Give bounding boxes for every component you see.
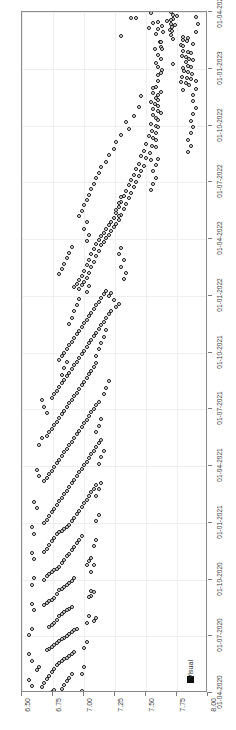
scatter-point bbox=[127, 183, 131, 187]
value-tick-mark bbox=[176, 692, 177, 696]
scatter-point bbox=[65, 360, 69, 364]
scatter-point bbox=[137, 162, 141, 166]
scatter-point bbox=[119, 265, 123, 269]
scatter-point bbox=[92, 563, 96, 567]
scatter-point bbox=[45, 648, 49, 652]
scatter-point bbox=[89, 252, 93, 256]
scatter-point bbox=[72, 285, 76, 289]
scatter-point bbox=[92, 365, 96, 369]
scatter-point bbox=[89, 187, 93, 191]
scatter-point bbox=[94, 538, 98, 542]
value-tick-label: 7.50 bbox=[148, 698, 155, 712]
value-axis: 6.506.757.007.257.507.758.00 bbox=[21, 692, 207, 730]
scatter-point bbox=[70, 672, 74, 676]
scatter-point bbox=[124, 120, 128, 124]
scatter-point bbox=[92, 182, 96, 186]
value-tick-mark bbox=[52, 692, 53, 696]
scatter-point bbox=[87, 595, 91, 599]
scatter-point bbox=[30, 525, 34, 529]
scatter-point bbox=[99, 165, 103, 169]
scatter-point bbox=[82, 646, 86, 650]
scatter-point bbox=[32, 576, 36, 580]
scatter-point bbox=[42, 405, 46, 409]
scatter-point bbox=[27, 652, 31, 656]
scatter-point bbox=[191, 125, 195, 129]
value-tick-label: 6.50 bbox=[24, 698, 31, 712]
scatter-point bbox=[107, 153, 111, 157]
scatter-point bbox=[190, 72, 194, 76]
legend: Visual bbox=[181, 660, 200, 683]
scatter-point bbox=[82, 227, 86, 231]
scatter-point bbox=[72, 309, 76, 313]
scatter-point bbox=[151, 182, 155, 186]
scatter-point bbox=[30, 583, 34, 587]
time-tick-label: 01-04-2021 bbox=[216, 448, 223, 481]
scatter-point bbox=[124, 271, 128, 275]
scatter-point bbox=[85, 198, 89, 202]
scatter-point bbox=[129, 178, 133, 182]
chart-page: Visual 6.506.757.007.257.507.758.00 01-0… bbox=[0, 0, 236, 730]
scatter-point bbox=[180, 75, 184, 79]
scatter-point bbox=[50, 396, 54, 400]
value-tick-label: 6.75 bbox=[55, 698, 62, 712]
scatter-point bbox=[94, 254, 98, 258]
scatter-point bbox=[134, 167, 138, 171]
scatter-point bbox=[94, 430, 98, 434]
scatter-point bbox=[67, 322, 71, 326]
scatter-point bbox=[70, 245, 74, 249]
scatter-point bbox=[32, 608, 36, 612]
scatter-point bbox=[80, 672, 84, 676]
scatter-point bbox=[65, 256, 69, 260]
scatter-point bbox=[27, 633, 31, 637]
scatter-point bbox=[35, 668, 39, 672]
scatter-point bbox=[159, 40, 163, 44]
time-tick-label: 01-01-2022 bbox=[216, 278, 223, 311]
value-tick-mark bbox=[21, 692, 22, 696]
time-tick-label: 01-10-2021 bbox=[216, 335, 223, 368]
scatter-point bbox=[191, 58, 195, 62]
scatter-point bbox=[82, 203, 86, 207]
scatter-point bbox=[156, 20, 160, 24]
scatter-point bbox=[55, 503, 59, 507]
time-tick-mark bbox=[208, 635, 212, 636]
scatter-point bbox=[80, 209, 84, 213]
scatter-point bbox=[117, 214, 121, 218]
scatter-point bbox=[187, 83, 191, 87]
scatter-point bbox=[65, 405, 69, 409]
scatter-point bbox=[99, 243, 103, 247]
scatter-point bbox=[144, 142, 148, 146]
scatter-point bbox=[70, 367, 74, 371]
time-tick-label: 01-04-2020 bbox=[216, 675, 223, 708]
scatter-point bbox=[171, 62, 175, 66]
scatter-point bbox=[99, 417, 103, 421]
scatter-point bbox=[30, 627, 34, 631]
scatter-point bbox=[119, 133, 123, 137]
scatter-point bbox=[37, 474, 41, 478]
scatter-point bbox=[99, 481, 103, 485]
scatter-point bbox=[85, 376, 89, 380]
scatter-point bbox=[50, 670, 54, 674]
scatter-point bbox=[154, 176, 158, 180]
scatter-point bbox=[85, 239, 89, 243]
scatter-point bbox=[161, 30, 165, 34]
scatter-point bbox=[30, 551, 34, 555]
scatter-point bbox=[89, 265, 93, 269]
scatter-point bbox=[87, 193, 91, 197]
scatter-point bbox=[154, 32, 158, 36]
scatter-point bbox=[114, 305, 118, 309]
scatter-point bbox=[160, 47, 164, 51]
time-tick-mark bbox=[208, 125, 212, 126]
time-tick-label: 01-10-2020 bbox=[216, 562, 223, 595]
scatter-point bbox=[80, 534, 84, 538]
scatter-points bbox=[22, 12, 206, 691]
scatter-point bbox=[134, 16, 138, 20]
scatter-point bbox=[99, 341, 103, 345]
scatter-point bbox=[82, 665, 86, 669]
time-tick-mark bbox=[208, 238, 212, 239]
scatter-point bbox=[107, 294, 111, 298]
scatter-point bbox=[97, 238, 101, 242]
scatter-point bbox=[185, 39, 189, 43]
scatter-point bbox=[75, 303, 79, 307]
scatter-point bbox=[92, 544, 96, 548]
scatter-point bbox=[30, 659, 34, 663]
